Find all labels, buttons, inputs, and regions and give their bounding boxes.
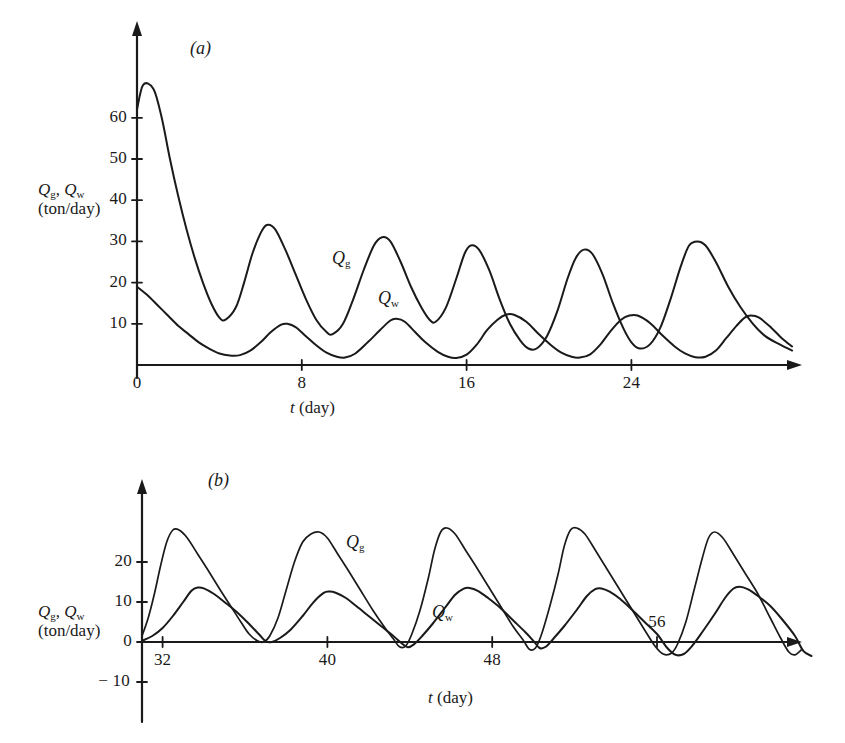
y-axis-q-gas-symbol: Q: [38, 602, 50, 621]
x-tick-label: 16: [447, 373, 487, 392]
x-tick-label: 56: [637, 612, 677, 631]
x-tick-label: 40: [307, 650, 347, 669]
y-tick-label: 30: [85, 230, 127, 249]
y-axis-separator: ,: [56, 180, 65, 199]
curve-label-gas-q: Q: [332, 248, 345, 268]
panel-b-curve-label-gas: Qg: [346, 532, 365, 552]
y-tick-label: 40: [85, 189, 127, 208]
y-axis-q-gas-subscript: g: [50, 610, 56, 622]
x-tick-label: 24: [611, 373, 651, 392]
panel-b: (b) Qg, Qw (ton/day) t (day) Qg Qw 20100…: [0, 440, 845, 743]
y-tick-label: 0: [90, 631, 132, 650]
y-axis-q-water-subscript: w: [77, 188, 85, 200]
y-tick-label: 10: [85, 313, 127, 332]
x-tick-label: 8: [282, 373, 322, 392]
panel-b-label: (b): [208, 470, 229, 490]
curve-label-water-sub: w: [445, 611, 453, 623]
curve-label-gas-sub: g: [359, 541, 365, 553]
x-axis-units: (day): [299, 398, 335, 417]
panel-a-curve-label-water: Qw: [378, 288, 399, 308]
panel-a-curve-label-gas: Qg: [332, 248, 351, 268]
curve-label-water-sub: w: [391, 297, 399, 309]
y-tick-label: 50: [85, 148, 127, 167]
y-tick-label: − 10: [70, 671, 130, 690]
x-tick-label: 0: [117, 373, 157, 392]
figure-container: (a) Qg, Qw (ton/day) t (day) Qg Qw 60504…: [0, 0, 845, 743]
x-tick-label: 32: [143, 650, 183, 669]
panel-a: (a) Qg, Qw (ton/day) t (day) Qg Qw 60504…: [0, 0, 845, 440]
y-axis-q-water-symbol: Q: [64, 602, 76, 621]
y-axis-q-water-symbol: Q: [64, 180, 76, 199]
curve-label-water-q: Q: [378, 288, 391, 308]
panel-a-label: (a): [190, 38, 211, 58]
panel-a-x-axis-caption: t (day): [290, 398, 335, 417]
x-tick-label: 48: [472, 650, 512, 669]
panel-b-x-axis-caption: t (day): [428, 688, 473, 707]
y-tick-label: 60: [85, 107, 127, 126]
panel-b-curve-label-water: Qw: [432, 602, 453, 622]
x-axis-units: (day): [437, 688, 473, 707]
x-axis-t-symbol: t: [290, 398, 295, 417]
y-tick-label: 20: [90, 551, 132, 570]
y-axis-q-water-subscript: w: [77, 610, 85, 622]
curve-label-water-q: Q: [432, 602, 445, 622]
y-tick-label: 20: [85, 272, 127, 291]
curve-label-gas-q: Q: [346, 532, 359, 552]
x-axis-t-symbol: t: [428, 688, 433, 707]
y-tick-label: 10: [90, 591, 132, 610]
y-axis-q-gas-subscript: g: [50, 188, 56, 200]
y-axis-separator: ,: [56, 602, 65, 621]
curve-label-gas-sub: g: [345, 257, 351, 269]
y-axis-q-gas-symbol: Q: [38, 180, 50, 199]
